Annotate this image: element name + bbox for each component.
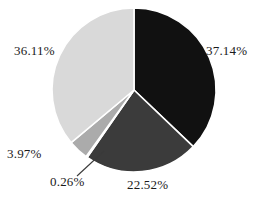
pie-slice-group bbox=[52, 8, 216, 172]
slice-label-36: 36.11% bbox=[14, 44, 55, 57]
slice-label-37: 37.14% bbox=[206, 44, 247, 57]
slice-label-0: 0.26% bbox=[50, 175, 85, 188]
pie-chart-canvas bbox=[0, 0, 258, 200]
slice-label-22: 22.52% bbox=[127, 178, 168, 191]
slice-label-3: 3.97% bbox=[7, 147, 42, 160]
pie-chart-figure: 37.14% 36.11% 3.97% 0.26% 22.52% bbox=[0, 0, 258, 200]
